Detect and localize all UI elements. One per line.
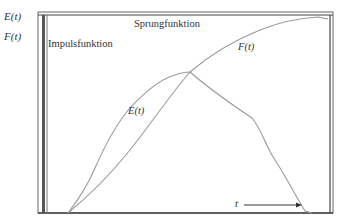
sprungfunktion-label: Sprungfunktion — [134, 18, 201, 29]
curve-f-label: F(t) — [237, 41, 255, 53]
curve-e-label: E(t) — [127, 105, 145, 117]
curve-e — [68, 72, 312, 213]
impulsfunktion-bar — [42, 15, 45, 213]
chart-plot: Impulsfunktion Sprungfunktion E(t) F(t) … — [0, 0, 341, 221]
impulsfunktion-label: Impulsfunktion — [48, 38, 113, 49]
t-axis-label: t — [235, 198, 239, 209]
t-arrow-head-icon — [296, 203, 302, 208]
